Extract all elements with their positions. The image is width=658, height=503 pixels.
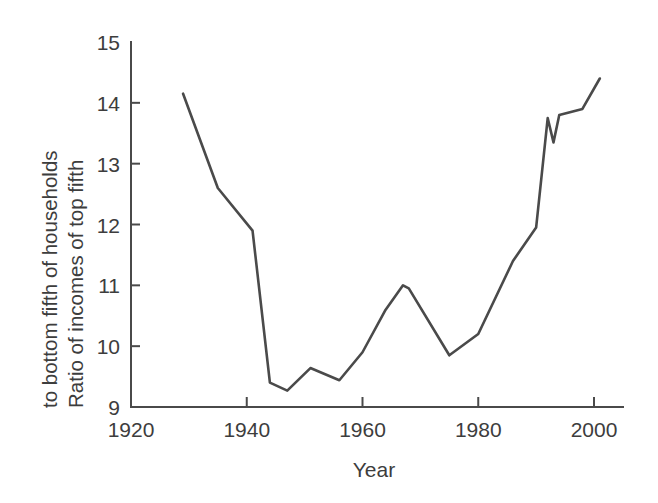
x-tick-label: 1940: [223, 418, 270, 441]
y-tick-label: 11: [98, 274, 120, 297]
x-tick-label: 1960: [339, 418, 386, 441]
y-tick-label: 14: [97, 92, 121, 115]
y-tick-label: 10: [97, 335, 120, 358]
x-axis-title: Year: [353, 458, 395, 481]
x-axis-tick-marks: [247, 397, 594, 407]
line-chart-plot: 9101112131415 19201940196019802000 Year: [0, 0, 658, 503]
x-tick-label: 1980: [455, 418, 502, 441]
x-axis-tick-labels: 19201940196019802000: [108, 418, 618, 441]
y-axis-tick-marks: [131, 103, 140, 346]
axis-frame: [131, 42, 623, 407]
y-axis-tick-labels: 9101112131415: [97, 31, 121, 419]
y-tick-label: 12: [97, 214, 120, 237]
y-tick-label: 15: [97, 31, 120, 54]
data-series-line: [183, 79, 600, 391]
x-tick-label: 1920: [108, 418, 155, 441]
x-tick-label: 2000: [571, 418, 618, 441]
y-tick-label: 9: [108, 396, 120, 419]
chart-figure: Ratio of incomes of top fifth to bottom …: [0, 0, 658, 503]
y-tick-label: 13: [97, 153, 120, 176]
